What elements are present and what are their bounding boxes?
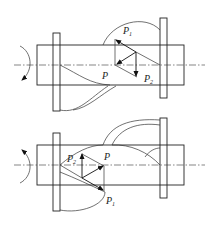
bottom-helix-curve	[112, 145, 160, 165]
bottom-label-p2: P2	[66, 153, 76, 165]
top-label-p: P	[101, 70, 108, 81]
bottom-rotation-arrow-icon	[20, 150, 30, 183]
top-parallelogram-edge	[115, 65, 137, 77]
bottom-vector-p1	[82, 178, 103, 190]
bottom-tooth-line	[60, 165, 82, 178]
top-figure: P1 P P2	[14, 18, 205, 111]
bottom-figure: P2 P P1	[14, 118, 205, 211]
bottom-label-p: P	[103, 151, 110, 162]
top-right-flange	[160, 18, 167, 98]
bottom-vector-p	[82, 166, 103, 178]
top-vector-p	[117, 52, 136, 64]
top-tooth-line	[136, 52, 160, 65]
top-label-p1: P1	[122, 25, 132, 37]
bottom-right-flange	[160, 118, 167, 198]
top-rotation-arrow-icon	[20, 46, 30, 80]
bottom-helix-curve	[112, 124, 160, 145]
helical-gear-force-diagram: P1 P P2 P2 P P1	[0, 0, 216, 230]
bottom-parallelogram-edge	[82, 154, 104, 166]
bottom-helix-curve	[145, 148, 160, 157]
bottom-helix-curve	[103, 120, 160, 145]
top-vector-p1	[116, 40, 136, 52]
top-label-p2: P2	[143, 73, 153, 85]
bottom-label-p1: P1	[105, 195, 115, 207]
